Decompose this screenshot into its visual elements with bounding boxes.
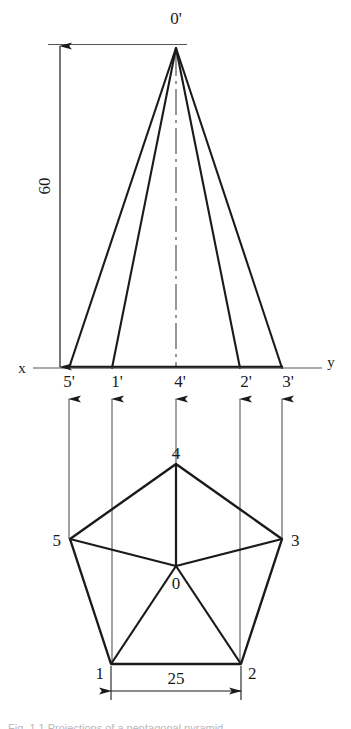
plan-edge-0-to-3 bbox=[176, 539, 282, 566]
projection-drawing: 0' x y 5' 1' 4' 2' 3' 60 bbox=[0, 0, 351, 729]
elevation-point-label-3p: 3' bbox=[282, 372, 294, 391]
plan-vertex-label-1: 1 bbox=[96, 664, 105, 683]
plan-centre-label-0: 0 bbox=[172, 574, 181, 593]
height-dimension-60: 60 bbox=[35, 46, 60, 367]
plan-vertex-label-5: 5 bbox=[53, 531, 62, 550]
elevation-edge-apex-to-2 bbox=[176, 48, 240, 368]
plan-vertex-label-3: 3 bbox=[291, 531, 300, 550]
height-dimension-value: 60 bbox=[35, 178, 54, 195]
base-dimension-value: 25 bbox=[168, 669, 185, 688]
plan-edge-0-to-5 bbox=[70, 539, 176, 566]
y-axis-label: y bbox=[327, 354, 335, 370]
plan-edge-0-to-1 bbox=[111, 566, 176, 664]
elevation-edge-apex-to-3 bbox=[176, 48, 282, 368]
figure-caption: Fig. 1.1 Projections of a pentagonal pyr… bbox=[0, 717, 351, 729]
plan-view: 4 5 3 1 2 0 25 bbox=[53, 444, 300, 700]
elevation-point-label-5p: 5' bbox=[63, 372, 75, 391]
apex-label: 0' bbox=[170, 9, 182, 28]
elevation-point-label-4p: 4' bbox=[174, 372, 186, 391]
technical-drawing-canvas: 0' x y 5' 1' 4' 2' 3' 60 bbox=[0, 0, 351, 729]
elevation-point-label-1p: 1' bbox=[111, 372, 123, 391]
elevation-view: 0' x y 5' 1' 4' 2' 3' 60 bbox=[18, 9, 335, 391]
elevation-point-label-2p: 2' bbox=[240, 372, 252, 391]
plan-vertex-label-2: 2 bbox=[248, 664, 257, 683]
x-axis-label: x bbox=[18, 360, 26, 376]
plan-edge-0-to-2 bbox=[176, 566, 241, 664]
base-dimension-25: 25 bbox=[111, 666, 241, 700]
plan-vertex-label-4: 4 bbox=[172, 444, 181, 463]
